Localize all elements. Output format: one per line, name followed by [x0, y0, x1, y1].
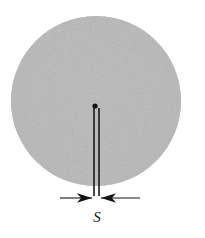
- disk-grain-overlay: [11, 16, 181, 186]
- slit-width-label: S: [93, 209, 101, 225]
- aperture-slit-figure: S: [0, 0, 205, 238]
- source-dot: [92, 103, 97, 108]
- figure-container: S: [0, 0, 205, 238]
- disk-group: [11, 16, 181, 186]
- slit-width-dimension: [60, 193, 140, 203]
